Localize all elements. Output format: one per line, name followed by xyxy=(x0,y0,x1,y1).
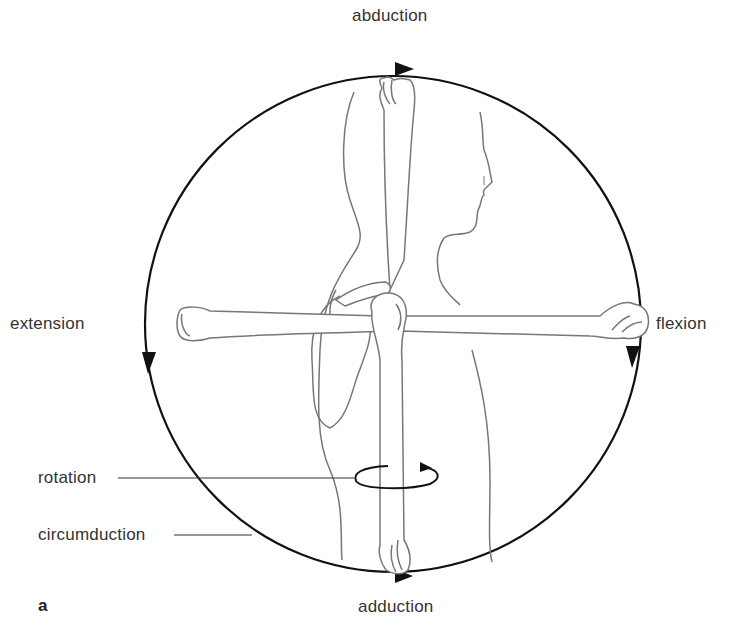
label-flexion: flexion xyxy=(656,314,707,334)
arrow-top-icon xyxy=(395,62,414,76)
movement-diagram: abduction adduction extension flexion ro… xyxy=(0,0,755,644)
arrow-left-icon xyxy=(142,352,156,374)
label-abduction: abduction xyxy=(352,6,428,26)
humerus-hanging xyxy=(371,293,410,574)
panel-letter: a xyxy=(38,596,47,616)
label-adduction: adduction xyxy=(358,597,434,617)
label-circumduction: circumduction xyxy=(38,525,145,545)
label-extension: extension xyxy=(10,314,85,334)
diagram-canvas xyxy=(0,0,755,644)
humerus-horizontal xyxy=(177,303,648,341)
label-rotation: rotation xyxy=(38,468,96,488)
humerus-raised xyxy=(380,77,415,290)
